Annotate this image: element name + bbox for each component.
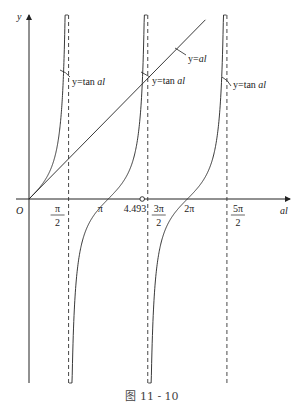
svg-text:y=tan al: y=tan al — [72, 76, 105, 87]
x-tick-2: π — [98, 203, 103, 214]
x-tick-4: 3π2 — [152, 203, 166, 228]
tick-denominator: 2 — [55, 217, 60, 228]
line-y-equals-al — [29, 20, 205, 199]
svg-text:y=tan al: y=tan al — [233, 79, 266, 90]
svg-text:y=tan al: y=tan al — [152, 75, 185, 86]
tan-branch-1 — [29, 15, 68, 199]
y-axis-label: y — [16, 11, 22, 22]
figure-caption: 图 11 - 10 — [125, 390, 178, 403]
x-tick-6: 5π2 — [231, 203, 245, 228]
tick-label: 2π — [184, 203, 194, 214]
label-tan-branch-1: y=tan al — [60, 70, 105, 87]
tick-numerator: 3π — [154, 203, 164, 214]
x-axis-label: al — [280, 205, 288, 216]
origin-label: O — [16, 205, 23, 216]
tick-numerator: 5π — [233, 203, 243, 214]
tick-label: π — [98, 203, 103, 214]
tick-numerator: π — [55, 203, 60, 214]
x-tick-1: π2 — [51, 203, 65, 228]
tan-intersection-diagram: y al O π2π4.4933π22π5π2 y=tan al y=al y=… — [0, 0, 304, 415]
root-marker — [140, 197, 145, 202]
svg-text:y=al: y=al — [188, 53, 207, 64]
label-tan-branch-3: y=tan al — [222, 77, 266, 90]
tick-denominator: 2 — [156, 217, 161, 228]
tick-denominator: 2 — [235, 217, 240, 228]
tan-label-1: y=tan — [72, 76, 97, 87]
tick-label: 4.493 — [124, 203, 147, 214]
label-y-equals-al: y=al — [175, 48, 207, 64]
x-tick-5: 2π — [184, 203, 194, 214]
